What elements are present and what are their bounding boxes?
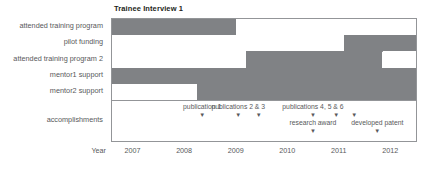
annotation-marker-icon: ▼: [333, 112, 339, 118]
inactive-bar-segment: [236, 19, 416, 35]
year-axis: 200720082009201020112012: [111, 144, 417, 158]
year-axis-caption: Year: [66, 146, 106, 155]
annotation-label: research award: [290, 120, 337, 127]
annotation-marker-icon: ▼: [351, 112, 357, 118]
category-label: attended training program 2: [13, 55, 103, 62]
timeline-row: [112, 84, 416, 100]
inactive-bar-segment: [112, 84, 197, 100]
gantt-chart-figure: Trainee Interview 1 attended training pr…: [0, 0, 434, 173]
year-tick-label: 2007: [125, 146, 141, 155]
active-bar-segment: [197, 84, 416, 100]
category-axis-labels: attended training programpilot fundingat…: [0, 18, 108, 142]
annotation-marker-icon: ▼: [374, 128, 380, 134]
inactive-bar-segment: [112, 51, 246, 67]
timeline-row: [112, 35, 416, 51]
year-tick-label: 2008: [176, 146, 192, 155]
annotation-label: developed patent: [351, 120, 403, 127]
annotation-marker-icon: ▼: [235, 112, 241, 118]
category-label: mentor2 support: [50, 87, 103, 94]
annotation-label: publications 2 & 3: [211, 104, 265, 111]
active-bar-segment: [112, 19, 236, 35]
category-label: pilot funding: [64, 38, 103, 45]
plot-area: publication 1▼publications 2 & 3▼▼public…: [111, 18, 417, 142]
year-tick-label: 2011: [331, 146, 346, 155]
chart-title: Trainee Interview 1: [114, 4, 183, 13]
category-label: attended training program: [19, 22, 103, 29]
inactive-bar-segment: [112, 35, 344, 51]
active-bar-segment: [112, 68, 416, 84]
timeline-row: [112, 19, 416, 35]
annotation-marker-icon: ▼: [256, 112, 262, 118]
year-tick-label: 2009: [228, 146, 244, 155]
active-bar-segment: [246, 51, 383, 67]
annotation-marker-icon: ▼: [310, 112, 316, 118]
timeline-row: [112, 68, 416, 84]
annotation-marker-icon: ▼: [310, 128, 316, 134]
row-divider: [112, 100, 416, 101]
inactive-bar-segment: [383, 51, 416, 67]
timeline-row: [112, 51, 416, 67]
annotation-marker-icon: ▼: [199, 112, 205, 118]
year-tick-label: 2010: [279, 146, 295, 155]
annotation-label: publications 4, 5 & 6: [282, 104, 343, 111]
year-tick-label: 2012: [382, 146, 398, 155]
active-bar-segment: [344, 35, 416, 51]
category-label: accomplishments: [47, 116, 103, 123]
category-label: mentor1 support: [50, 71, 103, 78]
